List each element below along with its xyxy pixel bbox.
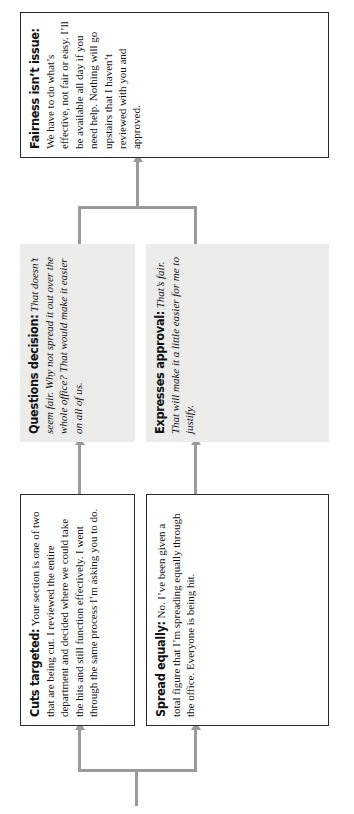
connector-split-spine	[78, 769, 197, 772]
node-lead-questions-decision: Questions decision:	[27, 315, 41, 434]
flowchart-canvas: Cuts targeted: Your section is one of tw…	[0, 0, 354, 814]
node-lead-expresses-approval: Expresses approval:	[153, 311, 167, 434]
node-lead-cuts-targeted: Cuts targeted:	[28, 629, 42, 717]
node-body-fairness-isnt-issue: We have to do what’s effective, not fair…	[44, 21, 143, 149]
node-lead-fairness-isnt-issue: Fairness isn’t issue:	[28, 28, 42, 149]
connector-entry-stub	[135, 770, 138, 806]
connector-merge-upper	[78, 206, 81, 246]
node-questions-decision[interactable]: Questions decision: That doesn’t seem fa…	[20, 244, 135, 442]
connector-branch-upper	[78, 728, 81, 772]
connector-merge-outlet	[136, 160, 139, 209]
connector-cuts-to-questions	[78, 443, 81, 495]
connector-branch-lower	[194, 728, 197, 772]
node-fairness-isnt-issue[interactable]: Fairness isn’t issue: We have to do what…	[20, 12, 329, 158]
node-expresses-approval[interactable]: Expresses approval: That’s fair. That wi…	[146, 244, 329, 442]
connector-merge-lower	[194, 206, 197, 246]
node-cuts-targeted[interactable]: Cuts targeted: Your section is one of tw…	[20, 494, 135, 726]
connector-spread-to-approval	[194, 443, 197, 495]
node-lead-spread-equally: Spread equally:	[154, 621, 168, 717]
node-spread-equally[interactable]: Spread equally: No. I’ve been given a to…	[146, 494, 329, 726]
diagram-frame: Cuts targeted: Your section is one of tw…	[0, 0, 354, 814]
